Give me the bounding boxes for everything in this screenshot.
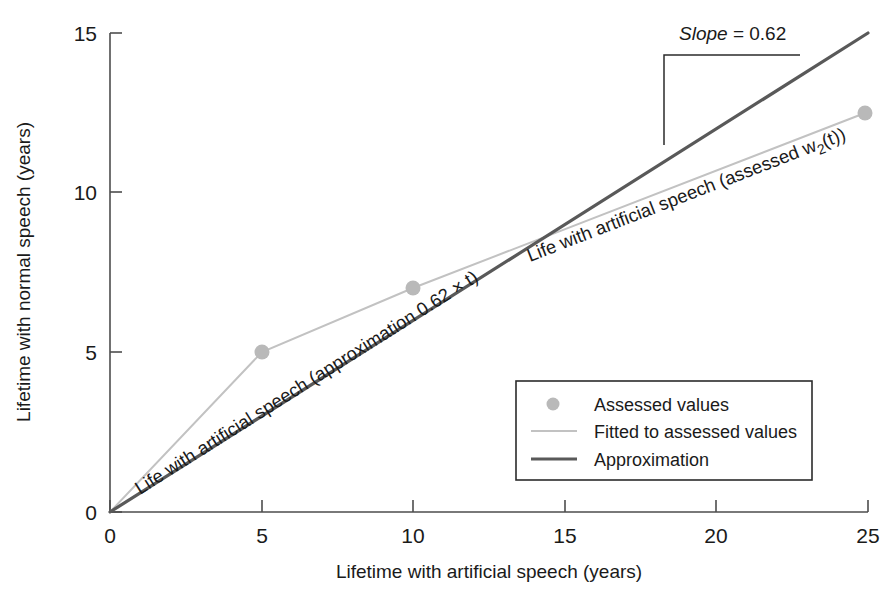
assessed-curve-label: Life with artificial speech (assessed w2…	[524, 123, 850, 269]
data-point	[406, 281, 421, 296]
y-tick-label-0: 0	[85, 501, 97, 524]
line-chart: 15 10 5 0 0 5 10 15 20 25 Lifetime with …	[0, 0, 895, 594]
x-tick-label-0: 0	[104, 524, 116, 547]
x-axis: 0 5 10 15 20 25	[104, 500, 880, 547]
y-tick-label-15: 15	[74, 22, 97, 45]
data-point	[255, 345, 270, 360]
slope-annotation-value: = 0.62	[728, 23, 787, 44]
data-point	[858, 106, 873, 121]
slope-annotation: Slope = 0.62	[664, 23, 800, 145]
legend: Assessed values Fitted to assessed value…	[516, 381, 812, 480]
y-axis-title: Lifetime with normal speech (years)	[13, 122, 34, 422]
slope-annotation-label: Slope = 0.62	[679, 23, 786, 44]
x-tick-label-25: 25	[856, 524, 879, 547]
legend-label-assessed-values: Assessed values	[594, 395, 729, 415]
chart-figure: 15 10 5 0 0 5 10 15 20 25 Lifetime with …	[0, 0, 895, 594]
y-tick-label-10: 10	[74, 181, 97, 204]
legend-label-approximation: Approximation	[594, 450, 709, 470]
approximation-curve-label: Life with artificial speech (approximati…	[131, 266, 482, 498]
x-tick-label-20: 20	[704, 524, 727, 547]
slope-annotation-word: Slope	[679, 23, 728, 44]
y-axis: 15 10 5 0	[74, 22, 122, 524]
assessed-curve-label-part1: Life with artificial speech (assessed w	[524, 134, 820, 265]
y-tick-label-5: 5	[85, 341, 97, 364]
slope-bracket	[664, 55, 800, 145]
x-tick-label-10: 10	[401, 524, 424, 547]
x-axis-title: Lifetime with artificial speech (years)	[336, 561, 642, 582]
legend-marker-dot-icon	[547, 398, 560, 411]
x-tick-label-5: 5	[256, 524, 268, 547]
legend-label-fitted-to-assessed-values: Fitted to assessed values	[594, 422, 797, 442]
x-tick-label-15: 15	[553, 524, 576, 547]
